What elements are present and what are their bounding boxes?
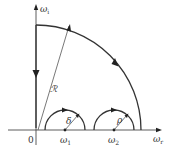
indentation-1-arrow-icon	[62, 108, 68, 113]
contour-diagram: ℛ δ ρ ωi ωr 0 ω1 ω2	[0, 0, 172, 151]
indentation-2-arrow-icon	[111, 108, 117, 113]
rho-label: ρ	[116, 115, 123, 125]
large-arc-direction-arrow-icon	[112, 58, 119, 67]
origin-label: 0	[28, 135, 34, 145]
omega2-label: ω2	[108, 135, 119, 146]
omega2-dot	[113, 129, 116, 132]
radius-label: ℛ	[50, 84, 58, 94]
return-path-arrow-icon	[33, 70, 40, 78]
delta-label: δ	[66, 116, 71, 126]
real-axis-arrow-icon	[156, 128, 162, 132]
indentation-2-arc	[94, 110, 134, 130]
imag-axis-label: ωi	[40, 4, 49, 15]
indentation-1-arc	[45, 110, 85, 130]
omega1-dot	[64, 129, 67, 132]
radius-ray-arrow-icon	[67, 24, 72, 32]
omega1-label: ω1	[60, 135, 71, 146]
real-axis-label: ωr	[153, 134, 163, 145]
imag-axis-arrow-icon	[34, 4, 38, 10]
